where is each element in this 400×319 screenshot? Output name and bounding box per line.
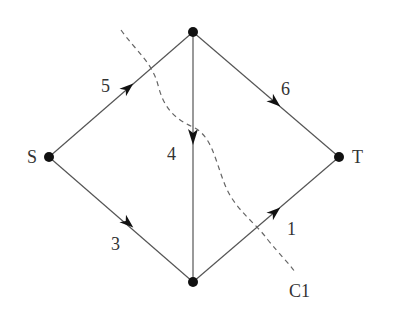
edge-a-to-t xyxy=(193,32,339,157)
edge-b-to-t xyxy=(193,157,339,282)
edge-s-to-a xyxy=(49,32,193,157)
capacity-label-a-b: 4 xyxy=(167,144,176,164)
capacity-label-s-a: 5 xyxy=(101,76,110,96)
capacity-label-b-t: 1 xyxy=(287,219,296,239)
cut-label-c1: C1 xyxy=(289,281,310,301)
node-a xyxy=(188,27,198,37)
capacity-label-a-t: 6 xyxy=(281,79,290,99)
flow-network-diagram: S T 5 6 4 3 1 C1 xyxy=(0,0,400,319)
diagram-svg: S T 5 6 4 3 1 C1 xyxy=(0,0,400,319)
node-t xyxy=(334,152,344,162)
node-b xyxy=(188,277,198,287)
node-label-s: S xyxy=(27,147,37,167)
node-s xyxy=(44,152,54,162)
arrow-icon-s-to-b xyxy=(119,215,136,232)
capacity-label-s-b: 3 xyxy=(111,234,120,254)
node-label-t: T xyxy=(352,147,363,167)
edge-s-to-b xyxy=(49,157,193,282)
cut-curve-c1 xyxy=(121,30,295,272)
